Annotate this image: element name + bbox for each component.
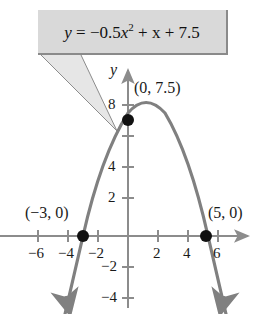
- equation-equals: =: [76, 22, 86, 41]
- right-root-label: (5, 0): [208, 205, 243, 221]
- y-axis-name: y: [110, 62, 117, 78]
- curve-arrow-left: [66, 296, 68, 305]
- y-tick-label-neg4: −4: [101, 290, 117, 305]
- y-tick-label-8: 8: [108, 97, 116, 112]
- y-tick-label-neg2: −2: [101, 259, 117, 274]
- x-tick-label-neg6: −6: [28, 246, 44, 261]
- y-tick-label-2: 2: [108, 190, 116, 205]
- equation-coefficient: −0.5: [90, 22, 121, 41]
- equation-text: y = −0.5x2 + x + 7.5: [64, 21, 199, 43]
- equation-callout-box: y = −0.5x2 + x + 7.5: [38, 10, 228, 55]
- curve-arrow-right: [222, 296, 224, 305]
- y-tick-label-4: 4: [108, 159, 116, 174]
- point-right-root: [200, 230, 212, 242]
- equation-exponent: 2: [128, 21, 134, 33]
- point-y-intercept: [122, 114, 134, 126]
- parabola-figure: y = −0.5x2 + x + 7.5 y −6 −4 −2 2 4 6 8 …: [0, 0, 257, 314]
- x-tick-label-6: 6: [213, 246, 221, 261]
- left-root-label: (−3, 0): [25, 205, 69, 221]
- x-tick-label-neg4: −4: [58, 246, 74, 261]
- parabola-curve: [65, 103, 226, 314]
- vertex-intercept-label: (0, 7.5): [134, 80, 181, 96]
- point-left-root: [77, 230, 89, 242]
- x-tick-label-4: 4: [183, 246, 191, 261]
- equation-lhs: y: [64, 22, 72, 41]
- x-tick-label-2: 2: [153, 246, 161, 261]
- equation-remainder: + x + 7.5: [138, 22, 200, 41]
